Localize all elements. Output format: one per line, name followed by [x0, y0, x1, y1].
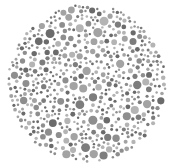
dot	[116, 11, 119, 14]
dot	[49, 79, 52, 82]
dot	[103, 103, 105, 105]
dot	[58, 108, 62, 112]
dot	[23, 67, 28, 72]
dot	[139, 30, 142, 33]
dot	[77, 39, 81, 43]
dot	[113, 100, 116, 103]
dot	[28, 47, 30, 49]
dot	[53, 38, 55, 40]
dot	[125, 83, 128, 86]
dot	[62, 150, 70, 158]
dot	[85, 137, 88, 140]
dot	[40, 134, 46, 140]
dot	[64, 85, 67, 88]
dot	[93, 28, 102, 37]
dot	[130, 38, 137, 45]
dot	[95, 84, 101, 90]
dot	[41, 129, 44, 132]
dot	[103, 30, 106, 33]
dot	[32, 84, 35, 87]
dot	[93, 79, 97, 83]
dot	[40, 117, 43, 120]
dot	[18, 110, 21, 113]
dot	[105, 89, 108, 92]
dot	[112, 11, 114, 13]
dot	[45, 50, 50, 55]
dot	[145, 95, 148, 98]
dot	[36, 46, 39, 49]
dot	[121, 90, 124, 93]
dot	[121, 25, 126, 30]
dot	[97, 148, 99, 150]
dot	[117, 30, 121, 34]
dot	[137, 34, 142, 39]
dot	[57, 141, 59, 143]
dot	[134, 54, 138, 58]
dot	[102, 79, 106, 83]
dot	[119, 17, 122, 20]
dot	[46, 120, 48, 122]
dot	[82, 120, 86, 124]
dot	[97, 77, 100, 80]
dot	[153, 55, 156, 58]
dot	[86, 6, 90, 10]
dot	[121, 94, 124, 97]
dot	[51, 114, 53, 116]
dot	[41, 123, 45, 127]
dot	[150, 43, 155, 48]
dot	[81, 17, 84, 20]
dot	[136, 58, 141, 63]
dot	[115, 146, 118, 149]
dot	[116, 51, 118, 53]
dot	[35, 112, 40, 117]
dot	[96, 139, 98, 141]
dot	[46, 114, 51, 119]
dot	[75, 158, 78, 161]
dot	[99, 40, 103, 44]
dot	[72, 108, 75, 111]
dot	[107, 107, 110, 110]
dot	[157, 97, 164, 104]
dot	[78, 5, 81, 8]
dot	[47, 62, 49, 64]
dot	[133, 125, 137, 129]
dot	[59, 22, 65, 28]
dot	[94, 23, 97, 26]
dot	[93, 143, 95, 145]
dot	[87, 124, 90, 127]
dot	[107, 142, 110, 145]
dot	[46, 29, 55, 38]
dot	[85, 155, 88, 158]
dot	[92, 73, 94, 75]
dot	[24, 119, 27, 122]
dot	[147, 49, 150, 52]
dot	[99, 95, 103, 99]
dot	[108, 25, 112, 29]
dot	[129, 84, 132, 87]
dot	[97, 45, 100, 48]
dot	[85, 77, 87, 79]
dot	[122, 13, 125, 16]
dot-plate	[0, 0, 172, 166]
dot	[15, 65, 18, 68]
dot	[122, 36, 128, 42]
dot	[60, 69, 63, 72]
dot	[90, 150, 98, 158]
dot	[80, 61, 82, 63]
dot	[85, 111, 87, 113]
dot	[151, 121, 155, 125]
dot	[34, 141, 37, 144]
dot	[88, 136, 92, 140]
dot	[24, 126, 28, 130]
dot	[152, 112, 155, 115]
dot	[60, 49, 63, 52]
dot	[64, 63, 68, 67]
dot	[49, 119, 57, 127]
dot	[90, 49, 95, 54]
dot	[48, 86, 51, 89]
dot	[75, 51, 77, 53]
dot	[152, 78, 155, 81]
dot	[18, 76, 22, 80]
dot	[38, 52, 40, 54]
dot	[154, 85, 157, 88]
